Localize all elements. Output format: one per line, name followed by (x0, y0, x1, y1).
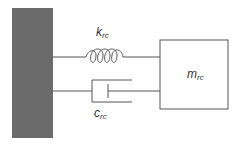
mass-label: mrc (187, 68, 204, 82)
damper-label: crc (94, 107, 107, 121)
spring (53, 49, 160, 63)
fixed-wall (12, 8, 53, 138)
damper (53, 80, 160, 102)
spring-mass-damper-diagram (0, 0, 240, 146)
spring-label: krc (96, 26, 109, 40)
